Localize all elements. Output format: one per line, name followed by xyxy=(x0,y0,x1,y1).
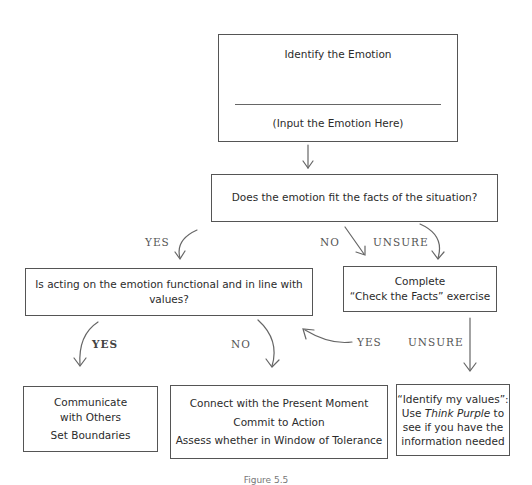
communicate-line2: with Others xyxy=(60,410,121,425)
communicate-line1: Communicate xyxy=(54,395,127,410)
values-line2-post: to xyxy=(490,407,504,419)
fit-facts-question: Does the emotion fit the facts of the si… xyxy=(232,190,478,205)
label-check-yes: YES xyxy=(357,336,382,348)
values-line2: Use Think Purple to xyxy=(402,406,504,420)
label-fit-no: NO xyxy=(320,236,340,248)
functional-question: Is acting on the emotion functional and … xyxy=(26,277,312,307)
communicate-line3: Set Boundaries xyxy=(51,428,131,443)
connect-line1: Connect with the Present Moment xyxy=(190,394,369,412)
think-purple-reference: Think Purple xyxy=(425,407,490,419)
label-functional-yes: YES xyxy=(92,338,118,350)
values-line4: information needed xyxy=(401,434,504,448)
values-line3: see if you have the xyxy=(403,420,504,434)
label-check-unsure: UNSURE xyxy=(408,336,464,348)
label-functional-no: NO xyxy=(231,338,251,350)
connect-present-box: Connect with the Present Moment Commit t… xyxy=(170,385,388,459)
figure-caption: Figure 5.5 xyxy=(0,475,532,485)
label-fit-unsure: UNSURE xyxy=(373,236,429,248)
values-line1: “Identify my values”: xyxy=(397,392,508,406)
check-facts-line1: Complete xyxy=(395,274,446,289)
identify-values-box: “Identify my values”: Use Think Purple t… xyxy=(396,384,510,456)
identify-emotion-box: Identify the Emotion (Input the Emotion … xyxy=(218,34,458,142)
emotion-input-line[interactable] xyxy=(235,104,441,105)
connect-line3: Assess whether in Window of Tolerance xyxy=(176,431,383,449)
connect-line2: Commit to Action xyxy=(233,413,324,431)
communicate-box: Communicate with Others Set Boundaries xyxy=(23,386,158,452)
identify-emotion-title: Identify the Emotion xyxy=(285,47,392,62)
values-line2-pre: Use xyxy=(402,407,425,419)
label-fit-yes: YES xyxy=(145,236,170,248)
check-facts-box: Complete “Check the Facts” exercise xyxy=(343,266,497,312)
fit-facts-question-box: Does the emotion fit the facts of the si… xyxy=(211,174,498,222)
emotion-input-placeholder[interactable]: (Input the Emotion Here) xyxy=(219,116,457,131)
check-facts-line2: “Check the Facts” exercise xyxy=(350,289,490,304)
functional-question-box: Is acting on the emotion functional and … xyxy=(25,268,313,316)
